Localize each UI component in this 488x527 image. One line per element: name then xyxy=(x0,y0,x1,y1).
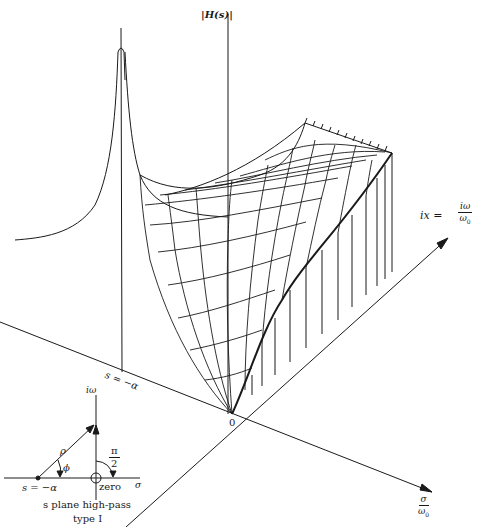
inset-phi-label: ϕ xyxy=(63,463,70,473)
inset-zero-label: zero xyxy=(99,482,121,492)
inset-rho-label: ρ xyxy=(60,446,66,456)
imag-axis-label: ix = xyxy=(420,210,442,221)
surface-back-edge xyxy=(165,123,392,195)
inset-pole-dot xyxy=(36,476,40,480)
inset-caption-line2: type I xyxy=(73,514,102,524)
real-axis-fraction: σ ω0 xyxy=(418,495,429,518)
inset-angle-fraction: π 2 xyxy=(109,446,120,469)
inset-imag-label: iω xyxy=(86,386,96,395)
peak-left-flank xyxy=(15,52,118,240)
surface-mesh xyxy=(140,140,392,414)
imag-axis-fraction: iω ω0 xyxy=(458,202,472,225)
curtain-lines xyxy=(252,153,392,395)
pole-line xyxy=(121,28,122,372)
vertical-axis-label: |H(s)| xyxy=(201,10,233,20)
inset-real-label: σ xyxy=(135,481,141,490)
origin-label: 0 xyxy=(229,418,235,428)
imag-axis xyxy=(126,247,438,527)
real-axis-arrowhead xyxy=(420,484,432,492)
inset-caption-line1: s plane high-pass xyxy=(43,500,131,510)
inset-pole-label: s = −α xyxy=(22,483,57,493)
back-edge-ticks xyxy=(305,118,387,151)
front-profile-curve xyxy=(232,153,392,414)
surface-diagram xyxy=(0,0,488,527)
